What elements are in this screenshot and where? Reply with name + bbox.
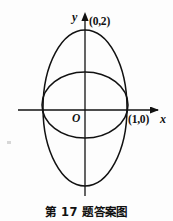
scan-artifact-speck [7, 141, 11, 144]
coordinate-plot [0, 0, 173, 221]
figure-container: y x O (0,2) (1,0) 第 17 题答案图 [0, 0, 173, 221]
y-axis-label: y [72, 11, 77, 23]
figure-caption: 第 17 题答案图 [0, 203, 173, 219]
x-axis-label: x [160, 113, 166, 125]
y-axis-arrowhead [81, 12, 88, 21]
point-label-right: (1,0) [128, 114, 149, 126]
origin-label: O [72, 113, 80, 125]
point-label-top: (0,2) [89, 16, 110, 28]
